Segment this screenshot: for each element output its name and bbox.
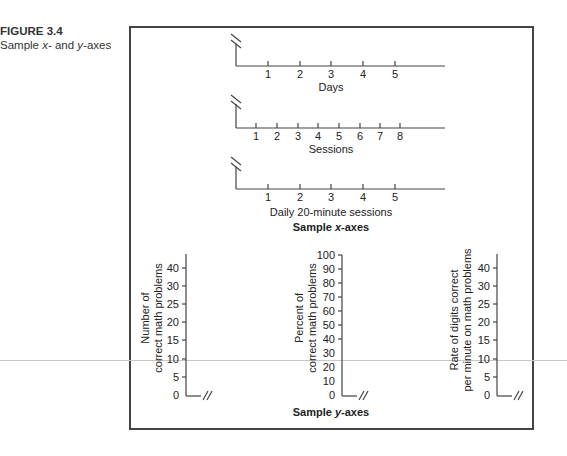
svg-text:Number of: Number of	[139, 291, 151, 343]
svg-text:80: 80	[323, 277, 335, 289]
y-tick-labels-number: 40 30 25 20 15 10 5 0	[167, 262, 179, 401]
svg-text:1: 1	[253, 130, 259, 142]
svg-text:15: 15	[167, 334, 179, 346]
svg-text:40: 40	[167, 262, 179, 274]
svg-text:6: 6	[357, 130, 363, 142]
svg-text:2: 2	[297, 68, 303, 80]
y-tick-labels-percent: 100 90 80 70 60 50 40 30 20 10 0	[317, 249, 335, 401]
svg-text:5: 5	[336, 130, 342, 142]
svg-text:5: 5	[484, 371, 490, 383]
svg-text:20: 20	[478, 316, 490, 328]
x-axis-daily-sessions	[231, 157, 445, 189]
svg-text:4: 4	[315, 130, 321, 142]
svg-text:30: 30	[323, 347, 335, 359]
svg-text:15: 15	[478, 334, 490, 346]
x-axis-label-days: Days	[318, 81, 344, 93]
y-axis-label-rate: Rate of digits correct per minute on mat…	[448, 248, 473, 392]
x-tick-labels-daily: 1 2 3 4 5 Daily 20-minute sessions	[265, 191, 398, 218]
svg-text:7: 7	[377, 130, 383, 142]
svg-text:Rate of digits correct: Rate of digits correct	[448, 270, 460, 371]
svg-text:1: 1	[265, 191, 271, 203]
svg-text:10: 10	[323, 375, 335, 387]
svg-text:100: 100	[317, 249, 335, 261]
svg-text:8: 8	[397, 130, 403, 142]
svg-text:3: 3	[295, 130, 301, 142]
svg-text:10: 10	[167, 353, 179, 365]
x-tick-labels-sessions: 1 2 3 4 5 6 7 8 Sessions	[253, 130, 403, 155]
axes-drawing: 1 2 3 4 5 Days 1 2 3 4 5 6 7 8 Sessions …	[0, 0, 567, 456]
x-axis-sessions	[231, 95, 445, 128]
y-axis-percent	[338, 255, 368, 400]
svg-text:20: 20	[167, 316, 179, 328]
y-tick-labels-rate: 40 30 25 20 15 10 5 0	[478, 262, 490, 401]
svg-text:0: 0	[484, 389, 490, 401]
svg-text:25: 25	[167, 298, 179, 310]
x-axis-label-daily: Daily 20-minute sessions	[270, 206, 393, 218]
svg-text:0: 0	[173, 389, 179, 401]
x-group-title: Sample x-axes	[293, 221, 369, 233]
x-axis-label-sessions: Sessions	[309, 143, 354, 155]
svg-text:50: 50	[323, 319, 335, 331]
svg-text:1: 1	[265, 68, 271, 80]
svg-text:per minute on math problems: per minute on math problems	[461, 248, 473, 392]
y-axis-rate	[493, 254, 523, 400]
svg-text:60: 60	[323, 305, 335, 317]
svg-text:25: 25	[478, 298, 490, 310]
svg-text:20: 20	[323, 361, 335, 373]
svg-text:2: 2	[274, 130, 280, 142]
svg-text:90: 90	[323, 263, 335, 275]
svg-text:30: 30	[167, 280, 179, 292]
svg-text:correct math problems: correct math problems	[306, 263, 318, 373]
svg-text:Percent of: Percent of	[293, 292, 305, 343]
svg-text:70: 70	[323, 291, 335, 303]
svg-text:5: 5	[392, 68, 398, 80]
y-group-title: Sample y-axes	[293, 406, 369, 418]
x-tick-labels-days: 1 2 3 4 5 Days	[265, 68, 398, 93]
svg-text:40: 40	[478, 262, 490, 274]
svg-text:4: 4	[360, 191, 366, 203]
svg-text:5: 5	[392, 191, 398, 203]
x-axis-days	[231, 34, 445, 66]
svg-text:30: 30	[478, 280, 490, 292]
svg-text:correct math problems: correct math problems	[152, 263, 164, 373]
svg-text:2: 2	[297, 191, 303, 203]
svg-text:40: 40	[323, 333, 335, 345]
svg-text:5: 5	[173, 371, 179, 383]
svg-text:0: 0	[329, 389, 335, 401]
svg-text:3: 3	[328, 191, 334, 203]
y-axis-number	[182, 254, 212, 400]
svg-text:4: 4	[360, 68, 366, 80]
svg-text:3: 3	[328, 68, 334, 80]
y-axis-label-number: Number of correct math problems	[139, 263, 164, 373]
y-axis-label-percent: Percent of correct math problems	[293, 263, 318, 373]
svg-text:10: 10	[478, 353, 490, 365]
